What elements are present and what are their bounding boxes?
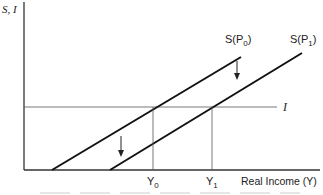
x-tick-y1: Y1 <box>206 175 218 190</box>
saving-curve-p0 <box>52 57 241 170</box>
investment-label: I <box>283 100 287 115</box>
x-tick-y0: Y0 <box>147 175 159 190</box>
y-axis-label: S, I <box>2 3 17 15</box>
shift-arrow-icon-upper <box>234 61 240 80</box>
x-axis-label: Real Income (Y) <box>241 175 317 187</box>
saving-curve-p1 <box>110 53 302 170</box>
shift-arrow-icon-lower <box>118 136 124 157</box>
saving-investment-diagram <box>0 0 323 195</box>
curve-label-p0: S(P0) <box>225 33 251 48</box>
curve-label-p1: S(P1) <box>290 33 316 48</box>
